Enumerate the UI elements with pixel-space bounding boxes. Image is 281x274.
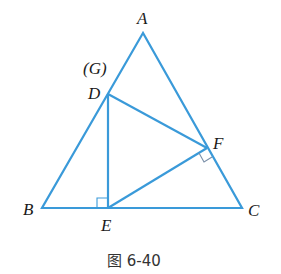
label-b: B [23, 200, 34, 219]
label-a: A [136, 9, 148, 28]
figure-caption: 图 6-40 [107, 252, 161, 270]
label-g: (G) [83, 59, 107, 78]
label-f: F [212, 134, 224, 153]
triangle-abc [42, 33, 242, 208]
label-e: E [100, 216, 112, 235]
right-angle-mark-e [97, 198, 108, 208]
label-d: D [87, 84, 101, 103]
label-c: C [248, 201, 260, 220]
segment-ef [108, 148, 207, 208]
triangle-diagram: A (G) D F B E C 图 6-40 [0, 0, 281, 274]
right-angle-mark-f [199, 153, 212, 162]
geometry-figure: A (G) D F B E C 图 6-40 [0, 0, 281, 274]
